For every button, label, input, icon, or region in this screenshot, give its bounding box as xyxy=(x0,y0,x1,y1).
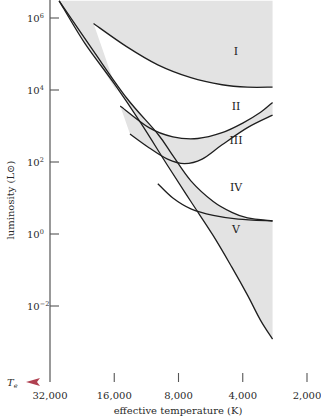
hr-diagram: IIIIIIIVV 10610410210010−2 32,00016,0008… xyxy=(0,0,321,417)
x-ticks: 32,00016,0008,0004,0002,000 xyxy=(33,373,321,401)
class-label-III: III xyxy=(230,134,243,147)
y-tick-base: 10 xyxy=(27,13,40,24)
y-axis-title: luminosity (L⊙) xyxy=(5,161,16,240)
x-axis-symbol: Te xyxy=(7,377,18,390)
x-axis-symbol-subscript: e xyxy=(14,382,18,390)
class-label-V: V xyxy=(231,223,241,236)
y-tick-base: 10 xyxy=(27,301,40,312)
region-class-III xyxy=(120,102,272,163)
class-label-IV: IV xyxy=(230,181,243,194)
y-tick-label: 10−2 xyxy=(27,300,49,312)
x-tick-label: 2,000 xyxy=(293,390,321,401)
y-ticks: 10610410210010−2 xyxy=(27,12,59,312)
y-tick-exponent: 6 xyxy=(40,12,44,20)
class-label-II: II xyxy=(232,100,241,113)
x-tick-label: 32,000 xyxy=(33,390,68,401)
y-tick-base: 10 xyxy=(27,157,40,168)
y-tick-label: 102 xyxy=(27,156,44,168)
class-label-I: I xyxy=(234,45,238,58)
y-tick-exponent: −2 xyxy=(40,300,50,308)
x-axis-title: effective temperature (K) xyxy=(114,405,243,416)
y-tick-exponent: 4 xyxy=(40,84,44,92)
y-tick-label: 106 xyxy=(27,12,44,24)
y-tick-base: 10 xyxy=(27,85,40,96)
region-class-I xyxy=(59,1,272,92)
y-tick-exponent: 2 xyxy=(40,156,44,164)
y-tick-label: 104 xyxy=(27,84,44,96)
x-tick-label: 8,000 xyxy=(164,390,193,401)
y-tick-label: 100 xyxy=(27,228,44,240)
x-tick-label: 16,000 xyxy=(97,390,132,401)
y-tick-base: 10 xyxy=(27,229,40,240)
y-tick-exponent: 0 xyxy=(40,228,44,236)
x-tick-label: 4,000 xyxy=(228,390,257,401)
